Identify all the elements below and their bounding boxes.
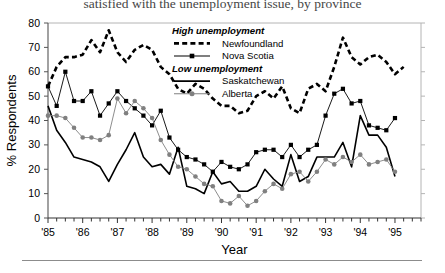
series-marker <box>193 174 198 179</box>
series-marker <box>332 92 336 96</box>
series-marker <box>141 106 146 111</box>
y-tick-label: 80 <box>28 17 40 29</box>
y-tick-label: 70 <box>28 41 40 53</box>
series-marker <box>280 155 284 159</box>
x-tick-label: '89 <box>180 226 194 238</box>
series-marker <box>376 126 380 130</box>
series-marker <box>263 189 268 194</box>
series-marker <box>323 114 327 118</box>
series-marker <box>63 116 68 121</box>
x-axis-title: Year <box>221 242 248 257</box>
x-tick-label: '94 <box>353 226 367 238</box>
series-marker <box>202 162 206 166</box>
series-marker <box>358 152 363 157</box>
series-marker <box>384 128 388 132</box>
series-marker <box>332 162 337 167</box>
x-tick-label: '93 <box>319 226 333 238</box>
series-marker <box>341 87 345 91</box>
series-marker <box>150 123 154 127</box>
series-marker <box>115 96 120 101</box>
series-marker <box>297 155 301 159</box>
series-marker <box>107 101 111 105</box>
legend-group-heading: Low unemployment <box>172 63 263 74</box>
legend-entry-label: Nova Scotia <box>222 50 274 61</box>
series-line-saskatchewan <box>48 106 395 194</box>
legend-entry-label: Saskatchewan <box>222 75 284 86</box>
series-marker <box>202 182 207 187</box>
series-marker <box>323 157 328 162</box>
series-marker <box>228 165 232 169</box>
series-marker <box>219 160 223 164</box>
series-marker <box>245 204 250 209</box>
y-tick-label: 0 <box>34 212 40 224</box>
legend-group-heading: High unemployment <box>172 25 265 36</box>
series-marker <box>393 116 397 120</box>
series-marker <box>72 99 76 103</box>
series-marker <box>315 169 320 174</box>
series-marker <box>375 160 380 165</box>
series-marker <box>211 184 216 189</box>
series-marker <box>237 167 241 171</box>
series-marker <box>245 162 249 166</box>
series-marker <box>150 116 155 121</box>
series-marker <box>228 201 233 206</box>
y-tick-label: 40 <box>28 114 40 126</box>
series-marker <box>98 138 103 143</box>
line-chart: 01020304050607080'85'86'87'88'89'90'91'9… <box>0 14 445 260</box>
series-marker <box>176 165 181 170</box>
x-tick-label: '95 <box>388 226 402 238</box>
figure-caption: satisfied with the unemployment issue, b… <box>0 0 445 14</box>
series-marker <box>306 179 311 184</box>
series-marker <box>115 89 119 93</box>
y-axis-title: % Respondents <box>4 74 19 166</box>
legend-swatch-marker <box>190 54 195 59</box>
series-marker <box>184 167 189 172</box>
series-marker <box>98 114 102 118</box>
series-marker <box>132 99 137 104</box>
series-marker <box>341 155 346 160</box>
y-tick-label: 20 <box>28 163 40 175</box>
series-marker <box>350 101 354 105</box>
x-tick-label: '87 <box>111 226 125 238</box>
x-tick-label: '91 <box>249 226 263 238</box>
series-marker <box>159 109 163 113</box>
series-marker <box>271 182 276 187</box>
series-marker <box>124 99 128 103</box>
series-marker <box>141 114 145 118</box>
series-marker <box>81 99 85 103</box>
series-marker <box>63 70 67 74</box>
series-marker <box>271 148 275 152</box>
series-marker <box>72 126 77 131</box>
series-marker <box>367 123 371 127</box>
series-marker <box>280 186 285 191</box>
x-tick-label: '90 <box>215 226 229 238</box>
series-marker <box>124 111 129 116</box>
series-marker <box>158 138 163 143</box>
y-tick-label: 50 <box>28 90 40 102</box>
series-marker <box>54 113 59 118</box>
series-marker <box>263 148 267 152</box>
series-marker <box>46 113 51 118</box>
chart-figure: 01020304050607080'85'86'87'88'89'90'91'9… <box>0 14 445 260</box>
series-marker <box>219 199 224 204</box>
legend-entry-label: Alberta <box>222 88 253 99</box>
series-marker <box>254 199 259 204</box>
legend-swatch-marker <box>190 91 195 96</box>
series-marker <box>297 169 302 174</box>
series-marker <box>167 152 172 157</box>
series-marker <box>289 172 294 177</box>
series-marker <box>358 99 362 103</box>
series-marker <box>89 135 94 140</box>
x-tick-label: '86 <box>76 226 90 238</box>
series-marker <box>254 150 258 154</box>
series-marker <box>315 143 319 147</box>
series-marker <box>193 157 197 161</box>
horizontal-rule <box>22 260 422 261</box>
x-tick-label: '92 <box>284 226 298 238</box>
legend-entry-label: Newfoundland <box>222 38 283 49</box>
series-marker <box>80 135 85 140</box>
series-marker <box>185 155 189 159</box>
series-marker <box>106 133 111 138</box>
series-marker <box>167 135 171 139</box>
series-marker <box>133 106 137 110</box>
